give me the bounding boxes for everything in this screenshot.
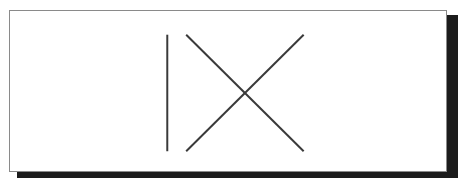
canvas-root — [0, 0, 467, 188]
ix-glyph-drawing — [10, 11, 446, 171]
drawing-panel[interactable] — [9, 10, 447, 172]
